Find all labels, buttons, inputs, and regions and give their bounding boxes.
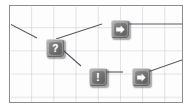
- diagram-node-process-top[interactable]: [111, 20, 129, 38]
- diagram-node-alert[interactable]: !: [89, 68, 107, 86]
- exclamation-mark-icon: !: [96, 72, 99, 83]
- node-inner-face: [135, 71, 148, 84]
- diagram-node-decision[interactable]: ?: [46, 39, 64, 57]
- node-inner-face: [114, 23, 127, 36]
- diagram-thumbnail: ? !: [0, 0, 192, 109]
- diagram-node-process-bottom[interactable]: [132, 68, 150, 86]
- node-inner-face: ?: [49, 42, 62, 55]
- question-mark-icon: ?: [52, 43, 58, 54]
- node-layer: ? !: [10, 6, 182, 102]
- diagram-canvas[interactable]: ? !: [9, 5, 183, 103]
- arrow-right-icon: [136, 72, 147, 83]
- arrow-right-icon: [115, 24, 126, 35]
- node-inner-face: !: [92, 71, 105, 84]
